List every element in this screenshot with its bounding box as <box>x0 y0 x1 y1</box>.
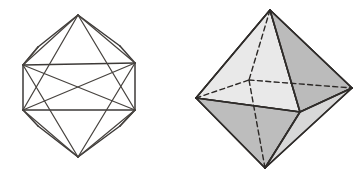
edge-bottom-apex-to-rect-bottom-right <box>78 110 135 157</box>
wireframe-upper-cap-edges <box>23 15 135 110</box>
edge-top-apex-to-rect-bottom-left <box>23 15 78 110</box>
edge-top-apex-to-rect-top-right <box>78 15 135 63</box>
edge-bottom-apex-to-rect-top-left <box>23 65 78 157</box>
edge-rect-top <box>23 63 135 65</box>
wireframe-polyhedron-svg <box>0 0 182 185</box>
edge-bottom-apex-to-rect-bottom-left <box>23 110 78 157</box>
edge-chord-lower-right-knee-to-rect-top-right <box>120 110 135 126</box>
shaded-octahedron-svg <box>182 0 364 185</box>
wireframe-internal-diagonals <box>23 47 135 126</box>
edge-top-apex-to-rect-top-left <box>23 15 78 65</box>
octahedron-faces <box>196 10 352 168</box>
edge-chord-upper-left-shoulder-to-rect-bottom-right <box>23 47 38 65</box>
polyhedra-figure-canvas <box>0 0 364 185</box>
